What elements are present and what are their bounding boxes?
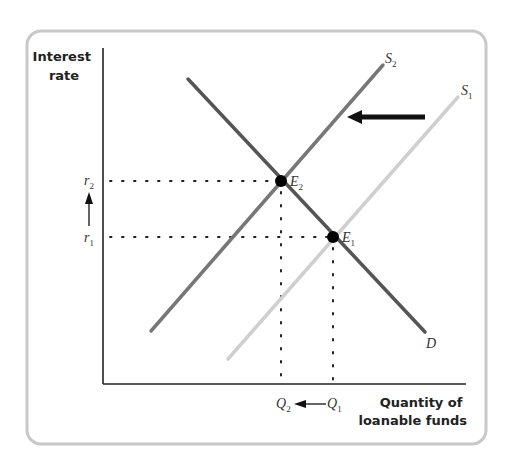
- d-label: D: [425, 336, 436, 351]
- diagram-frame: [27, 31, 486, 444]
- equilibrium-e1-dot: [327, 231, 339, 243]
- loanable-funds-diagram: Interest rate Quantity of loanable funds…: [0, 0, 510, 461]
- equilibrium-e2-dot: [275, 175, 287, 187]
